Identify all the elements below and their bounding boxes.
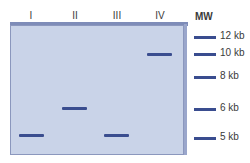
lane-label-2: II	[72, 10, 78, 21]
mw-band-12kb	[194, 36, 216, 39]
mw-text-12kb: 12 kb	[220, 30, 244, 41]
mw-band-6kb	[194, 108, 216, 111]
mw-band-8kb	[194, 76, 216, 79]
mw-text-8kb: 8 kb	[220, 70, 239, 81]
mw-label: MW	[195, 11, 213, 22]
band-lane-2	[62, 107, 87, 110]
gel-side-edge	[184, 24, 187, 155]
mw-text-6kb: 6 kb	[220, 102, 239, 113]
band-lane-4	[147, 53, 172, 56]
mw-text-10kb: 10 kb	[220, 47, 244, 58]
mw-text-5kb: 5 kb	[220, 131, 239, 142]
lane-label-1: I	[30, 10, 33, 21]
band-lane-3	[104, 134, 129, 137]
lane-label-3: III	[113, 10, 121, 21]
band-lane-1	[19, 134, 44, 137]
lane-label-4: IV	[155, 10, 164, 21]
mw-band-5kb	[194, 137, 216, 140]
mw-band-10kb	[194, 53, 216, 56]
